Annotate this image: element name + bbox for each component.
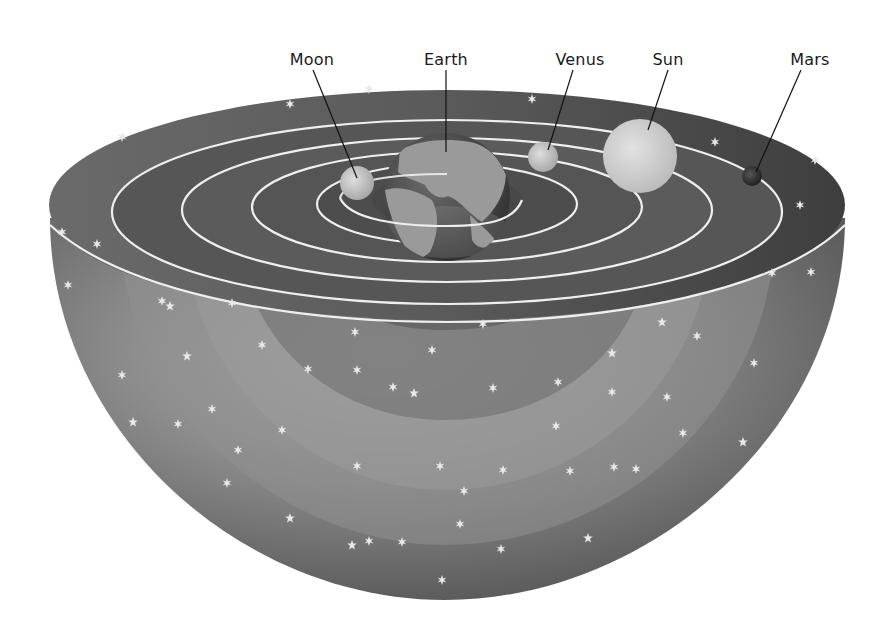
geocentric-diagram: Moon Earth Venus Sun Mars: [0, 0, 892, 631]
label-earth: Earth: [424, 50, 468, 69]
label-moon: Moon: [290, 50, 334, 69]
cosmos-illustration: [0, 0, 892, 631]
label-mars: Mars: [790, 50, 829, 69]
label-venus: Venus: [555, 50, 604, 69]
venus-body: [528, 142, 558, 172]
sun-body: [603, 119, 677, 193]
mars-body: [742, 166, 762, 186]
earth-globe: [382, 133, 510, 261]
moon-body: [340, 166, 374, 200]
label-sun: Sun: [652, 50, 683, 69]
